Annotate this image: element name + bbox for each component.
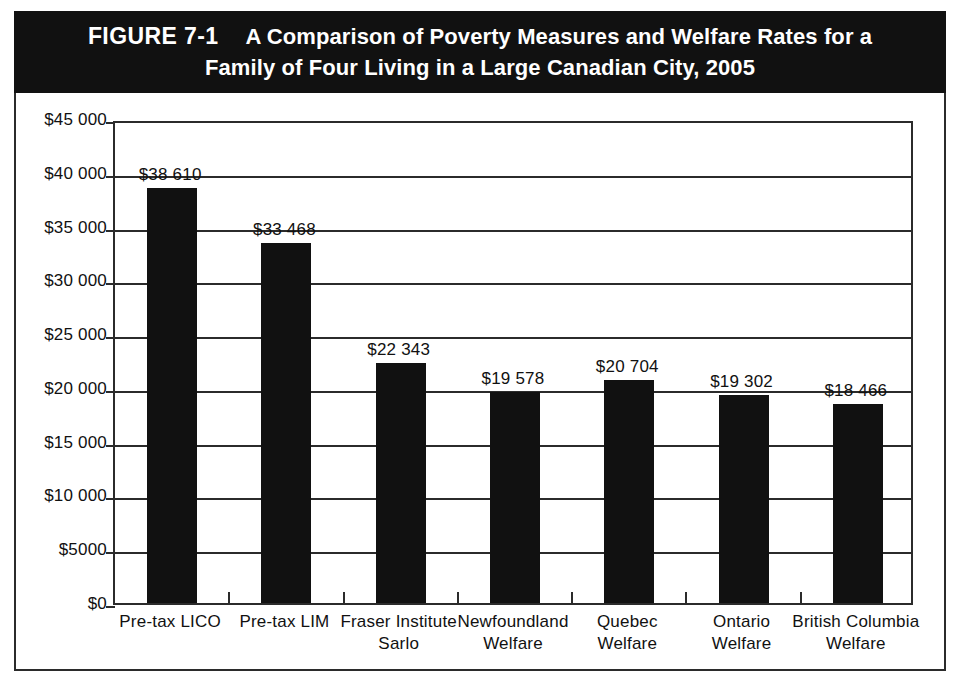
y-axis-tick-mark	[106, 122, 115, 124]
chart-region: $45 000$40 000$35 000$30 000$25 000$20 0…	[14, 93, 946, 671]
y-axis-tick-mark	[106, 283, 115, 285]
bar	[604, 380, 654, 603]
y-axis-tick-label: $20 000	[44, 379, 107, 399]
gridline	[115, 283, 911, 285]
bar	[147, 188, 197, 603]
figure-title-text-first: A Comparison of Poverty Measures and Wel…	[245, 24, 872, 50]
figure-title-line-1: FIGURE 7-1 A Comparison of Poverty Measu…	[88, 23, 872, 50]
figure-number-label: FIGURE 7-1	[88, 23, 219, 50]
y-axis-tick-label: $45 000	[44, 110, 107, 130]
y-axis-tick-mark	[106, 445, 115, 447]
bar-value-label: $18 466	[781, 381, 931, 401]
x-axis-category-label-line: British Columbia	[776, 611, 936, 633]
bar	[719, 395, 769, 603]
bar	[833, 404, 883, 603]
y-axis-tick-label: $5000	[59, 540, 107, 560]
y-axis-tick-mark	[106, 552, 115, 554]
x-axis-tick-mark	[457, 592, 459, 603]
y-axis-tick-mark	[106, 337, 115, 339]
x-axis-tick-mark	[571, 592, 573, 603]
x-axis-category-label-line: Welfare	[776, 633, 936, 655]
x-axis-tick-mark	[800, 592, 802, 603]
plot-area	[113, 121, 913, 605]
y-axis-tick-label: $35 000	[44, 218, 107, 238]
bar-value-label: $38 610	[95, 165, 245, 185]
y-axis-tick-mark	[106, 606, 115, 608]
y-axis-tick-label: $15 000	[44, 433, 107, 453]
figure-title-banner: FIGURE 7-1 A Comparison of Poverty Measu…	[14, 11, 946, 93]
y-axis-labels: $45 000$40 000$35 000$30 000$25 000$20 0…	[14, 121, 107, 605]
bar-value-label: $22 343	[324, 340, 474, 360]
bar-value-label: $33 468	[209, 220, 359, 240]
figure-title-text-second: Family of Four Living in a Large Canadia…	[205, 55, 755, 81]
bar	[490, 392, 540, 603]
y-axis-tick-label: $30 000	[44, 271, 107, 291]
x-axis-tick-mark	[343, 592, 345, 603]
gridline	[115, 337, 911, 339]
y-axis-tick-mark	[106, 498, 115, 500]
bar	[376, 363, 426, 603]
bar	[261, 243, 311, 603]
x-axis-tick-mark	[685, 592, 687, 603]
x-axis-category-label: British ColumbiaWelfare	[776, 611, 936, 655]
y-axis-tick-label: $10 000	[44, 486, 107, 506]
y-axis-tick-label: $25 000	[44, 325, 107, 345]
y-axis-tick-mark	[106, 391, 115, 393]
y-axis-tick-mark	[106, 230, 115, 232]
x-axis-tick-mark	[228, 592, 230, 603]
